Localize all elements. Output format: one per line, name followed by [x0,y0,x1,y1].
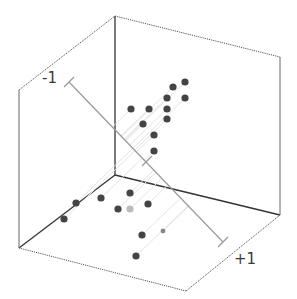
projection-line [126,124,143,141]
data-point [144,200,151,207]
value-axis [64,77,228,247]
data-point [72,199,79,206]
data-point [60,215,67,222]
data-point [169,83,176,90]
data-point [163,115,170,122]
data-point [97,194,104,201]
data-point [132,252,139,259]
data-point [161,229,166,234]
data-point [150,147,157,154]
scatter-3d-plot: -1 +1 [0,0,297,299]
data-points [60,78,188,259]
data-point [126,189,133,196]
data-point [181,94,188,101]
projection-line [148,185,168,204]
projection-line [124,98,167,139]
data-point [163,105,170,112]
projection-line [163,206,189,231]
data-point [114,205,121,212]
data-point [138,231,145,238]
data-point [127,105,134,112]
projection-line [64,151,135,219]
axis-label-start: -1 [42,69,57,87]
data-point [145,105,152,112]
data-point [163,94,170,101]
axis-label-end: +1 [234,250,256,268]
data-point [181,78,188,85]
data-point [150,131,157,138]
data-point [139,120,146,127]
plot-box-outer-edges [19,57,280,248]
projection-line [130,109,167,145]
data-point [126,205,133,212]
